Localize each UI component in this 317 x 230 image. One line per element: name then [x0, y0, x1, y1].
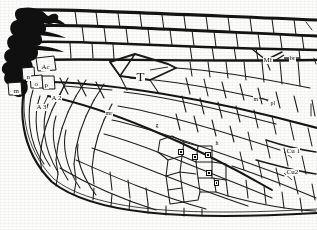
vein-label-mr: mr — [105, 110, 113, 116]
cell-marker-3 — [205, 152, 211, 158]
cell-marker-fill — [216, 182, 217, 184]
vein-label-h: h — [215, 140, 219, 146]
wing-venation-drawing — [0, 0, 317, 230]
vein-label-cu1: Cu 1 — [286, 148, 300, 155]
cell-marker-fill — [194, 156, 196, 158]
vein-label-mf: Mf — [263, 57, 273, 64]
vein-label-g: g — [155, 122, 159, 128]
vein-label-mr2: m — [253, 96, 259, 102]
vein-label-t: T — [136, 70, 145, 83]
cell-marker-fill — [208, 172, 210, 174]
cell-marker-2 — [192, 154, 198, 160]
vein-label-cu2: Cu2 — [286, 169, 299, 176]
vein-label-a2: A 2 — [51, 95, 62, 102]
media-vein — [42, 59, 317, 60]
cell-marker-fill — [207, 154, 209, 156]
vein-label-p: p — [44, 82, 49, 89]
wing-venation-figure: AcnopmA 2A 3TmrghmplMfbrCu 1Cu2 — [0, 0, 317, 230]
cell-marker-fill — [180, 151, 182, 153]
cell-marker-1 — [178, 149, 184, 155]
cell-marker-4 — [206, 170, 212, 176]
cell-marker-5 — [214, 180, 219, 186]
vein-label-m: m — [13, 88, 19, 95]
vein-label-o: o — [34, 81, 39, 88]
vein-label-a3: A 3 — [36, 104, 47, 111]
vein-label-ac: Ac — [41, 64, 50, 71]
vein-label-n: n — [26, 74, 31, 81]
vein-label-br: br — [289, 55, 296, 62]
vein-label-pl: pl — [270, 100, 276, 106]
